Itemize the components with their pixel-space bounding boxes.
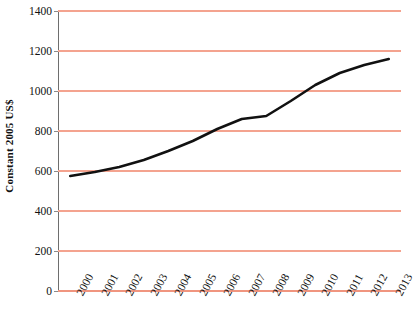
- y-tick-label: 1400: [29, 5, 52, 17]
- y-axis-title: Constant 2005 US$: [0, 0, 18, 292]
- chart-title-remnant: [185, 0, 300, 5]
- series-line-chart: [58, 11, 401, 291]
- y-tick-label: 200: [35, 245, 52, 257]
- y-tick-label: 1000: [29, 85, 52, 97]
- plot-area: [58, 11, 401, 291]
- y-axis-title-label: Constant 2005 US$: [3, 99, 15, 192]
- y-tick-label: 400: [35, 205, 52, 217]
- y-tick-label: 600: [35, 165, 52, 177]
- y-tick-label: 800: [35, 125, 52, 137]
- series-polyline: [70, 59, 389, 176]
- y-tick-label: 1200: [29, 45, 52, 57]
- y-tick-label: 0: [46, 285, 52, 297]
- y-axis-tick-labels: 0200400600800100012001400: [18, 0, 56, 292]
- x-axis-tick-labels: 2000200120022003200420052006200720082009…: [58, 292, 401, 330]
